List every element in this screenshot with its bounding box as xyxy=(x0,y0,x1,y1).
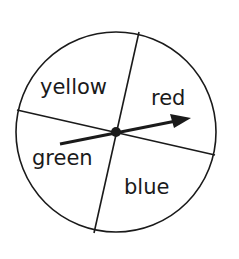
spinner-center-pivot xyxy=(111,127,121,137)
section-label-yellow: yellow xyxy=(40,75,107,99)
section-label-green: green xyxy=(32,146,93,170)
spinner-diagram: yellow red green blue xyxy=(0,0,239,259)
section-label-blue: blue xyxy=(124,175,169,199)
spinner-svg: yellow red green blue xyxy=(0,0,239,259)
section-label-red: red xyxy=(151,86,185,110)
